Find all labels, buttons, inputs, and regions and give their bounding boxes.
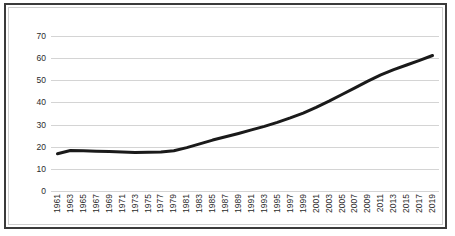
x-axis-tick-label: 1965 xyxy=(79,194,88,213)
y-axis-tick-label: 10 xyxy=(22,165,46,174)
x-axis-tick-label: 1983 xyxy=(195,194,204,213)
chart-frame: 706050403020100 196119631965196719691971… xyxy=(4,3,447,229)
y-axis-tick-labels: 706050403020100 xyxy=(20,36,46,191)
x-axis-tick-labels: 1961196319651967196919711973197519771979… xyxy=(51,194,439,234)
y-axis-tick-label: 60 xyxy=(22,54,46,63)
x-axis-tick-label: 1969 xyxy=(105,194,114,213)
x-axis-tick-label: 2001 xyxy=(312,194,321,213)
y-axis-tick-label: 30 xyxy=(22,120,46,129)
plot-area xyxy=(51,36,439,191)
x-axis-tick-label: 2009 xyxy=(363,194,372,213)
x-axis-tick-label: 1997 xyxy=(286,194,295,213)
x-axis-tick-label: 2003 xyxy=(325,194,334,213)
x-axis-tick-label: 1971 xyxy=(118,194,127,213)
x-axis-tick-label: 2007 xyxy=(350,194,359,213)
x-axis-tick-label: 1999 xyxy=(299,194,308,213)
x-axis-tick-label: 1989 xyxy=(234,194,243,213)
x-axis-tick-label: 2005 xyxy=(338,194,347,213)
x-axis-tick-label: 1977 xyxy=(156,194,165,213)
x-axis-tick-label: 1995 xyxy=(273,194,282,213)
x-axis-tick-label: 1963 xyxy=(66,194,75,213)
x-axis-tick-label: 1985 xyxy=(208,194,217,213)
x-axis-tick-label: 2013 xyxy=(389,194,398,213)
x-axis-tick-label: 2017 xyxy=(415,194,424,213)
x-axis-tick-label: 2011 xyxy=(376,194,385,212)
x-axis-tick-label: 1975 xyxy=(144,194,153,213)
x-axis-tick-label: 1961 xyxy=(53,194,62,213)
gridline xyxy=(51,191,439,192)
y-axis-tick-label: 70 xyxy=(22,32,46,41)
x-axis-tick-label: 2015 xyxy=(402,194,411,213)
series-1-polyline xyxy=(57,55,432,153)
x-axis-tick-label: 1987 xyxy=(221,194,230,213)
line-series xyxy=(51,36,439,191)
x-axis-tick-label: 1967 xyxy=(92,194,101,213)
x-axis-tick-label: 1979 xyxy=(169,194,178,213)
x-axis-tick-label: 1981 xyxy=(182,194,191,213)
y-axis-tick-label: 40 xyxy=(22,98,46,107)
x-axis-tick-label: 1973 xyxy=(131,194,140,213)
x-axis-tick-label: 1991 xyxy=(247,194,256,213)
y-axis-tick-label: 20 xyxy=(22,142,46,151)
y-axis-tick-label: 0 xyxy=(22,187,46,196)
x-axis-tick-label: 2019 xyxy=(428,194,437,213)
x-axis-tick-label: 1993 xyxy=(260,194,269,213)
y-axis-tick-label: 50 xyxy=(22,76,46,85)
